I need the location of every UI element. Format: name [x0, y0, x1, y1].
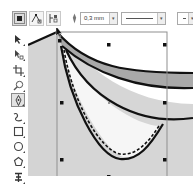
- select-all-nodes-icon: [14, 13, 25, 24]
- reduce-nodes-icon: [31, 13, 42, 24]
- chevron-down-icon[interactable]: ▾: [109, 13, 117, 24]
- line-style-combo[interactable]: ▾: [121, 12, 166, 25]
- arrowhead-combo[interactable]: ▾: [177, 12, 193, 25]
- drawing-artwork: [28, 28, 193, 187]
- elastic-mode-button[interactable]: [46, 11, 61, 26]
- polygon-tool[interactable]: [11, 154, 25, 168]
- outline-pen-icon: [71, 11, 78, 25]
- arrow-pointer-icon: [13, 34, 24, 45]
- left-panel-shape: [28, 32, 57, 187]
- coreldraw-window: 0,3 mm ▾ ▾ ▾: [0, 0, 193, 187]
- ellipse-tool[interactable]: [11, 139, 25, 153]
- center-marker: [108, 102, 110, 104]
- crop-tool[interactable]: [11, 63, 25, 77]
- crop-icon: [13, 65, 24, 76]
- text-icon: [13, 172, 24, 183]
- reduce-nodes-button[interactable]: [29, 11, 44, 26]
- select-all-nodes-button[interactable]: [12, 11, 27, 26]
- toolbox: [10, 30, 27, 187]
- line-style-preview: [126, 18, 153, 19]
- rectangle-icon: [13, 126, 24, 137]
- outline-width-value: 0,3 mm: [81, 15, 109, 21]
- smart-fill-tool[interactable]: [11, 110, 25, 124]
- rectangle-tool[interactable]: [11, 124, 25, 138]
- desktop-area: [28, 176, 193, 187]
- pick-tool[interactable]: [11, 32, 25, 46]
- zoom-tool[interactable]: [11, 78, 25, 92]
- chevron-down-icon[interactable]: ▾: [157, 13, 165, 24]
- magnifier-icon: [13, 80, 24, 91]
- elastic-mode-icon: [48, 13, 59, 24]
- shape-tool[interactable]: [11, 47, 25, 61]
- outline-width-combo[interactable]: 0,3 mm ▾: [80, 12, 118, 25]
- arrowhead-preview: [183, 18, 186, 19]
- freehand-tool[interactable]: [11, 93, 25, 107]
- smart-drawing-icon: [13, 112, 24, 123]
- shape-node-icon: [13, 49, 24, 60]
- drawing-canvas[interactable]: [28, 28, 193, 187]
- property-bar: 0,3 mm ▾ ▾ ▾: [12, 9, 193, 27]
- chevron-down-icon[interactable]: ▾: [188, 13, 193, 24]
- ellipse-icon: [13, 141, 24, 152]
- text-tool[interactable]: [11, 170, 25, 184]
- polygon-icon: [13, 156, 24, 167]
